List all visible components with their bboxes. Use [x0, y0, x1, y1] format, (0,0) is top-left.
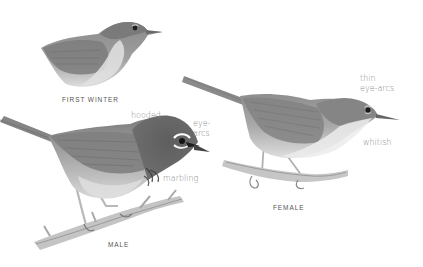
annotation-eye-arcs-male-line2: arcs — [193, 129, 210, 139]
bird-illustrations — [0, 0, 423, 267]
caption-first-winter: FIRST WINTER — [62, 96, 119, 103]
annotation-hooded: hooded — [131, 111, 161, 121]
annotation-thin-eye-arcs-line2: eye-arcs — [360, 84, 394, 94]
annotation-thin-eye-arcs-line1: thin — [360, 74, 394, 84]
first-winter-bird — [41, 22, 163, 87]
annotation-eye-arcs-male: eye- arcs — [193, 119, 210, 139]
annotation-whitish: whitish — [363, 138, 391, 148]
caption-male: MALE — [108, 241, 129, 248]
annotation-eye-arcs-male-line1: eye- — [193, 119, 210, 129]
female-branch — [222, 160, 348, 189]
annotation-thin-eye-arcs: thin eye-arcs — [360, 74, 394, 94]
illustration-plate: FIRST WINTER MALE FEMALE hooded eye- arc… — [0, 0, 423, 267]
caption-female: FEMALE — [273, 204, 304, 211]
annotation-marbling: marbling — [163, 174, 198, 184]
